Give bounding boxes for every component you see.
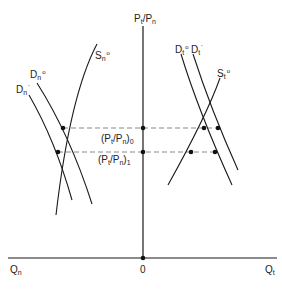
point-right-0b	[216, 126, 221, 131]
point-right-1a	[189, 150, 194, 155]
horizontal-axis-left-label: Qn	[10, 265, 22, 278]
curve-label-Dn1: Dn'	[16, 82, 29, 98]
demand-curve-Dn0	[37, 83, 92, 204]
point-right-1b	[213, 150, 218, 155]
supply-demand-diagram	[0, 0, 282, 291]
price-level-0-label: (Pt/Pn)0	[101, 134, 134, 147]
horizontal-axis-right-label: Qt	[265, 265, 275, 278]
point-left-0	[61, 126, 66, 131]
origin-point	[141, 256, 146, 261]
curve-label-Dt1: Dt'	[191, 42, 202, 58]
vertical-axis-label: Pt/Pn	[134, 14, 156, 27]
point-right-0a	[202, 126, 207, 131]
curve-label-St0: Sto	[217, 66, 230, 82]
point-left-1	[56, 150, 61, 155]
origin-label: 0	[140, 265, 146, 275]
curve-label-Dt0: Dto	[175, 42, 189, 58]
point-axis-0	[141, 126, 146, 131]
curve-label-Dn0: Dno	[30, 67, 45, 83]
price-level-1-label: (Pt/Pn)1	[98, 155, 131, 168]
point-axis-1	[141, 150, 146, 155]
curve-label-Sn0: Sno	[95, 48, 110, 64]
